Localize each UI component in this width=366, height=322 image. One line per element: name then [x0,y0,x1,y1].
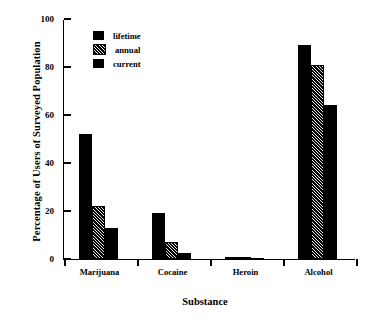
chart-legend: lifetimeannualcurrent [93,29,141,71]
bar-chart: Percentage of Users of Surveyed Populati… [0,0,366,322]
legend-item-current: current [93,57,141,70]
bar-cocaine-current [178,253,191,259]
y-tick-label: 0 [50,252,55,266]
legend-label-current: current [113,59,141,69]
bar-alcohol-current [324,105,337,259]
y-axis-title: Percentage of Users of Surveyed Populati… [31,12,42,272]
y-tick-mark [64,210,71,212]
y-tick-label: 80 [45,60,54,74]
x-category-label-cocaine: Cocaine [158,267,188,277]
x-category-label-heroin: Heroin [233,267,259,277]
x-tick-mark [210,259,212,266]
y-tick-mark [64,66,71,68]
legend-swatch-current [93,59,104,68]
x-tick-mark [283,259,285,266]
bar-cocaine-lifetime [152,213,165,259]
bar-heroin-annual [238,257,251,259]
y-tick-label: 100 [41,12,55,26]
bar-heroin-current [251,258,264,259]
x-tick-mark [64,259,66,266]
y-tick-label: 60 [45,108,54,122]
bar-alcohol-annual [311,65,324,259]
legend-label-annual: annual [115,45,140,55]
legend-item-lifetime: lifetime [93,29,141,42]
bar-marijuana-current [105,228,118,259]
bar-marijuana-annual [92,206,105,259]
legend-item-annual: annual [93,43,141,56]
legend-label-lifetime: lifetime [113,31,141,41]
bar-cocaine-annual [165,242,178,259]
bar-alcohol-lifetime [298,45,311,259]
x-category-label-alcohol: Alcohol [304,267,332,277]
y-tick-label: 40 [45,156,54,170]
x-axis-title: Substance [55,296,355,307]
x-tick-mark [356,259,358,266]
bar-heroin-lifetime [225,257,238,259]
y-tick-mark [64,18,71,20]
legend-swatch-lifetime [93,31,104,40]
legend-swatch-annual [93,44,106,55]
x-category-label-marijuana: Marijuana [80,267,120,277]
y-tick-label: 20 [45,204,54,218]
bar-marijuana-lifetime [79,134,92,259]
x-tick-mark [137,259,139,266]
y-tick-mark [64,114,71,116]
y-tick-mark [64,162,71,164]
